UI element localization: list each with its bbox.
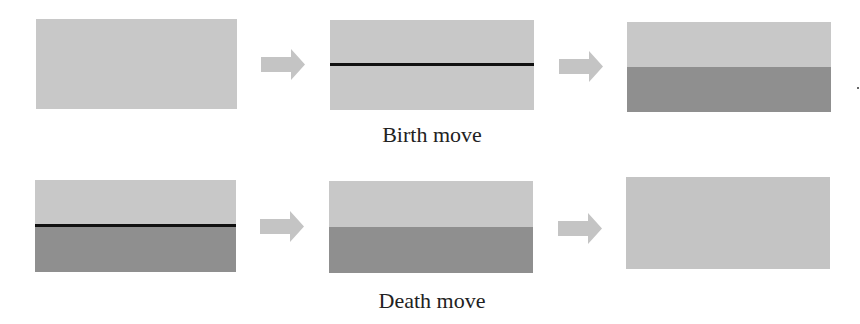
birth-panel-initial: [36, 19, 237, 109]
death-panel-result: [626, 177, 830, 269]
birth-result-top-region: [627, 22, 831, 67]
birth-move-caption: Birth move: [332, 124, 532, 146]
death-proposed-bottom-region: [329, 227, 533, 273]
death-arrow-2-icon: [558, 213, 603, 244]
birth-result-bottom-region: [627, 67, 831, 112]
birth-arrow-1-icon: [261, 49, 306, 80]
death-merge-line: [35, 224, 236, 227]
death-panel-initial: [35, 180, 236, 272]
death-proposed-top-region: [329, 181, 533, 227]
birth-split-line: [330, 63, 534, 66]
death-arrow-1-icon: [260, 211, 305, 242]
death-initial-bottom-region: [35, 226, 236, 272]
stray-dot: [857, 87, 859, 89]
death-move-caption: Death move: [331, 290, 533, 312]
birth-panel-split-proposed: [330, 20, 534, 110]
birth-panel-result: [627, 22, 831, 112]
death-initial-top-region: [35, 180, 236, 226]
death-panel-merge-proposed: [329, 181, 533, 273]
birth-arrow-2-icon: [559, 51, 604, 82]
